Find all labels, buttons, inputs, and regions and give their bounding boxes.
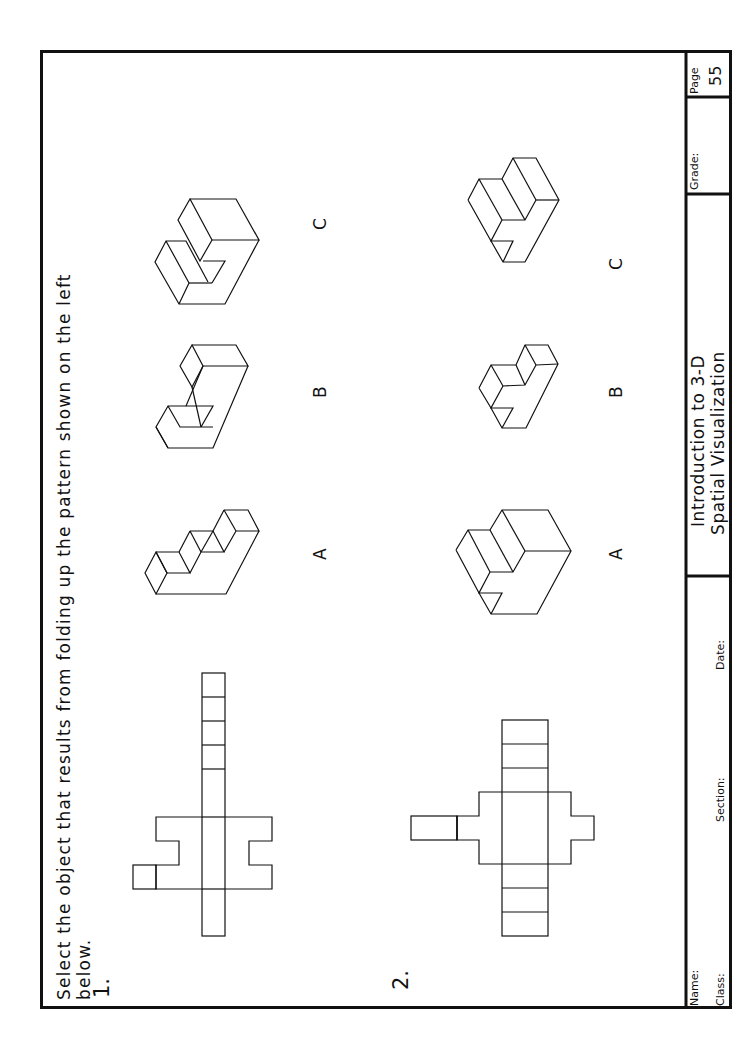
problem-1-option-b-object[interactable] <box>156 345 248 448</box>
grade-label: Grade: <box>688 153 701 190</box>
problem-1-option-c-label[interactable]: C <box>310 218 330 230</box>
course-title-line2: Spatial Visualization <box>708 351 728 535</box>
problem-1-option-a-label[interactable]: A <box>310 548 330 560</box>
problem-2-option-a-label[interactable]: A <box>606 548 626 560</box>
drawing-canvas <box>0 0 751 1039</box>
problem-1-option-a-object[interactable] <box>145 510 259 594</box>
problem-2-option-b-object[interactable] <box>479 345 558 428</box>
problem-2-pattern[interactable] <box>411 720 594 936</box>
problem-1-pattern[interactable] <box>133 673 272 936</box>
problem-1-option-c-object[interactable] <box>155 199 259 304</box>
problem-2-option-a-object[interactable] <box>456 510 571 614</box>
worksheet-page: Select the object that results from fold… <box>0 0 751 1039</box>
date-label: Date: <box>714 640 727 670</box>
class-label: Class: <box>714 973 727 1006</box>
page-number: 55 <box>706 66 725 86</box>
course-title-line1: Introduction to 3-D <box>688 355 708 527</box>
problem-2-option-c-label[interactable]: C <box>606 258 626 270</box>
problem-2-option-c-object[interactable] <box>468 158 559 262</box>
page-label: Page <box>688 67 701 94</box>
section-label: Section: <box>714 777 727 822</box>
problem-2-option-b-label[interactable]: B <box>606 386 626 398</box>
problem-2-number: 2. <box>389 970 413 990</box>
problem-1-option-b-label[interactable]: B <box>310 386 330 398</box>
problem-1-number: 1. <box>90 978 114 998</box>
instruction-text: Select the object that results from fold… <box>54 240 74 1000</box>
name-label: Name: <box>688 970 701 1006</box>
